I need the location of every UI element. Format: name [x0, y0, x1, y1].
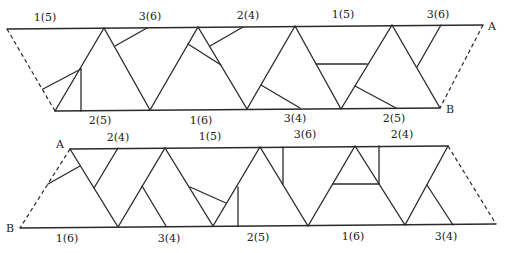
top-strip-top-label: 1(5) — [34, 11, 57, 24]
top-fold-1 — [43, 69, 81, 89]
top-strip-bottom-label: 3(4) — [284, 112, 307, 125]
strip-diagram: 1(5) 3(6) 2(4) 1(5) 3(6) 2(5) 1(6) 3(4) … — [0, 0, 507, 253]
top-fold-4 — [188, 44, 221, 65]
top-strip-upper-edge — [7, 25, 483, 29]
top-strip-right-dashed-edge — [440, 25, 483, 108]
bottom-fold-2 — [94, 148, 118, 188]
top-fold-6 — [261, 85, 300, 108]
bottom-strip-zigzag — [70, 146, 448, 227]
top-strip-top-label: 1(5) — [332, 8, 355, 21]
top-strip-top-label: 3(6) — [139, 10, 162, 23]
top-fold-3 — [115, 28, 147, 46]
bottom-strip-lower-edge — [20, 224, 496, 228]
top-fold-9 — [417, 25, 441, 67]
top-strip-left-dashed-edge — [7, 29, 55, 111]
bottom-strip-right-dashed-edge — [448, 146, 496, 224]
bottom-strip-bottom-label: 2(5) — [247, 231, 270, 244]
bottom-strip-bottom-label: 1(6) — [342, 230, 365, 243]
bottom-strip-top-label: 3(6) — [294, 128, 317, 141]
bottom-strip-top-label: 1(5) — [199, 130, 222, 143]
bottom-strip: 2(4) 1(5) 3(6) 2(4) 1(6) 3(4) 2(5) 1(6) … — [6, 128, 496, 245]
bottom-strip-left-dashed-edge — [20, 149, 70, 228]
bottom-fold-1 — [48, 166, 80, 184]
bottom-fold-3 — [142, 186, 166, 226]
bottom-strip-top-label: 2(4) — [107, 131, 130, 144]
bottom-strip-top-label: 2(4) — [391, 128, 414, 141]
bottom-strip-point-a: A — [55, 138, 65, 151]
bottom-fold-9 — [427, 185, 453, 225]
bottom-strip-point-b: B — [6, 222, 14, 235]
bottom-fold-4 — [190, 187, 226, 203]
top-strip-point-b: B — [446, 103, 454, 116]
top-fold-5 — [210, 27, 243, 46]
bottom-strip-bottom-label: 1(6) — [56, 232, 79, 245]
top-strip-zigzag — [55, 25, 440, 111]
bottom-strip-bottom-label: 3(4) — [435, 230, 458, 243]
top-strip-bottom-label: 2(5) — [383, 112, 406, 125]
top-strip-top-label: 2(4) — [237, 9, 260, 22]
top-strip-bottom-label: 1(6) — [190, 114, 213, 127]
top-fold-8 — [355, 86, 396, 108]
top-strip-top-label: 3(6) — [427, 8, 450, 21]
top-strip-point-a: A — [487, 20, 497, 33]
top-strip: 1(5) 3(6) 2(4) 1(5) 3(6) 2(5) 1(6) 3(4) … — [7, 8, 497, 127]
bottom-strip-bottom-label: 3(4) — [158, 232, 181, 245]
top-strip-bottom-label: 2(5) — [89, 114, 112, 127]
